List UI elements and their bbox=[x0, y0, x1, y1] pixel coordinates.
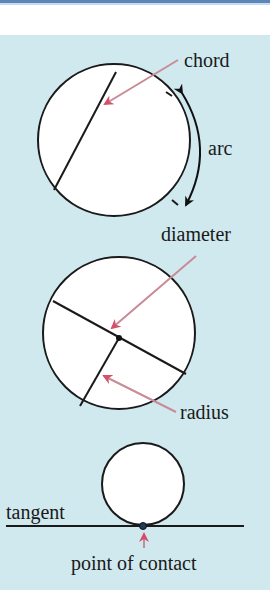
label-arc: arc bbox=[208, 137, 233, 159]
label-diameter: diameter bbox=[161, 223, 231, 245]
arc-tick-bottom bbox=[172, 200, 178, 205]
circle-3 bbox=[102, 443, 184, 525]
label-tangent: tangent bbox=[6, 501, 65, 524]
label-point-of-contact: point of contact bbox=[71, 552, 197, 575]
diameter-radius-figure: diameter radius bbox=[43, 223, 231, 423]
tangent-figure: tangent point of contact bbox=[6, 443, 244, 575]
centre-point bbox=[116, 335, 122, 341]
chord-arc-figure: chord arc bbox=[38, 49, 233, 216]
point-of-contact-dot bbox=[140, 523, 147, 530]
circle-parts-diagram: chord arc diameter radius tangent point … bbox=[0, 0, 270, 602]
label-radius: radius bbox=[180, 401, 229, 423]
label-chord: chord bbox=[184, 49, 230, 71]
circle-2 bbox=[43, 257, 195, 409]
circle-1 bbox=[38, 64, 190, 216]
